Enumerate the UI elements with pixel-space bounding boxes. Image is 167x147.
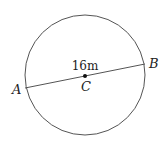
point-label-b: B	[148, 56, 159, 71]
center-point	[83, 74, 87, 78]
center-label-c: C	[81, 79, 91, 94]
circle-diagram: 16m C A B	[0, 0, 167, 147]
point-label-a: A	[11, 82, 21, 97]
length-label: 16m	[72, 59, 99, 73]
